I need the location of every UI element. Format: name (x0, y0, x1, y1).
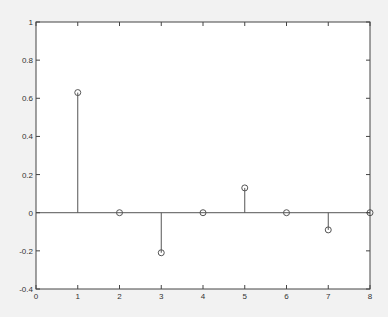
y-tick-label: -0.4 (19, 285, 33, 294)
x-tick-label: 5 (243, 292, 248, 301)
y-tick-label: 0.4 (22, 132, 34, 141)
y-tick-label: 0.8 (22, 56, 34, 65)
y-tick-label: 0.2 (22, 171, 34, 180)
plot-area (36, 22, 370, 289)
x-tick-label: 2 (117, 292, 122, 301)
stem-plot: 012345678 -0.4-0.200.20.40.60.81 (0, 0, 388, 317)
y-tick-label: -0.2 (19, 247, 33, 256)
x-tick-label: 7 (326, 292, 331, 301)
x-tick-label: 8 (368, 292, 373, 301)
y-tick-label: 0.6 (22, 94, 34, 103)
x-tick-label: 1 (76, 292, 81, 301)
x-tick-label: 4 (201, 292, 206, 301)
x-tick-label: 0 (34, 292, 39, 301)
x-tick-label: 3 (159, 292, 164, 301)
y-tick-label: 0 (29, 209, 34, 218)
y-tick-label: 1 (29, 18, 34, 27)
x-tick-label: 6 (284, 292, 289, 301)
